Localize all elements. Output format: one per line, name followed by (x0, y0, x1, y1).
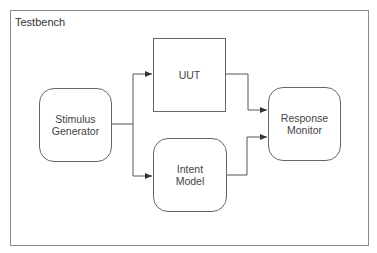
edge-stimulus-to-intent (133, 124, 152, 176)
stimulus-label-line2: Generator (52, 125, 99, 137)
intent-label-line1: Intent (176, 163, 205, 175)
stimulus-label-line1: Stimulus (52, 113, 99, 125)
edge-stimulus-to-uut (112, 74, 152, 124)
intent-model-block: Intent Model (153, 138, 227, 212)
response-label-line2: Monitor (281, 124, 328, 136)
uut-label: UUT (179, 69, 201, 81)
uut-block: UUT (153, 38, 226, 112)
edge-intent-to-response (226, 137, 267, 175)
stimulus-generator-block: Stimulus Generator (39, 88, 112, 162)
edge-uut-to-response (225, 74, 267, 110)
response-monitor-block: Response Monitor (268, 87, 341, 161)
response-label-line1: Response (281, 112, 328, 124)
intent-label-line2: Model (176, 175, 205, 187)
